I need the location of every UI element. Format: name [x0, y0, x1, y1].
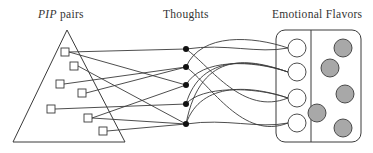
diagram-canvas: [0, 0, 373, 153]
pip-label-rest: pairs: [57, 8, 84, 20]
pair-thought-link: [69, 49, 186, 52]
thought-to-flavor-links: [186, 39, 288, 126]
pip-pair-node: [99, 127, 107, 135]
pair-thought-link: [64, 67, 186, 84]
gray-flavor-node: [336, 85, 354, 103]
pip-pair-node: [47, 105, 55, 113]
pip-pair-nodes: [47, 48, 107, 135]
pip-pair-node: [61, 48, 69, 56]
pair-thought-link: [92, 85, 186, 118]
flavor-nodes: [288, 39, 354, 137]
thought-flavor-link: [186, 122, 288, 125]
triangle-outline: [13, 30, 125, 142]
pair-to-thought-links: [55, 49, 186, 131]
thoughts-label: Thoughts: [163, 8, 209, 20]
pair-thought-link: [107, 124, 186, 131]
thought-node: [183, 121, 189, 127]
pip-pairs-triangle: [13, 30, 125, 142]
thought-node: [183, 82, 189, 88]
thought-node: [183, 46, 189, 52]
pair-thought-link: [92, 118, 186, 124]
gray-flavor-node: [321, 59, 339, 77]
pip-pairs-label: PIP pairs: [38, 8, 84, 20]
pip-pair-node: [56, 80, 64, 88]
gray-flavor-node: [334, 39, 352, 57]
pip-pair-node: [84, 114, 92, 122]
pip-pair-node: [78, 89, 86, 97]
white-flavor-node: [288, 39, 306, 57]
gray-flavor-node: [334, 119, 352, 137]
pip-label-italic: PIP: [38, 8, 57, 20]
pip-pair-node: [70, 62, 78, 70]
white-flavor-node: [288, 114, 306, 132]
emotional-flavors-label: Emotional Flavors: [272, 8, 362, 20]
white-flavor-node: [288, 63, 306, 81]
pip-thought-emotion-diagram: PIP pairs Thoughts Emotional Flavors: [0, 0, 373, 153]
thought-flavor-link: [186, 67, 288, 127]
gray-flavor-node: [308, 104, 326, 122]
thought-node: [183, 101, 189, 107]
white-flavor-node: [288, 89, 306, 107]
thought-node: [183, 64, 189, 70]
